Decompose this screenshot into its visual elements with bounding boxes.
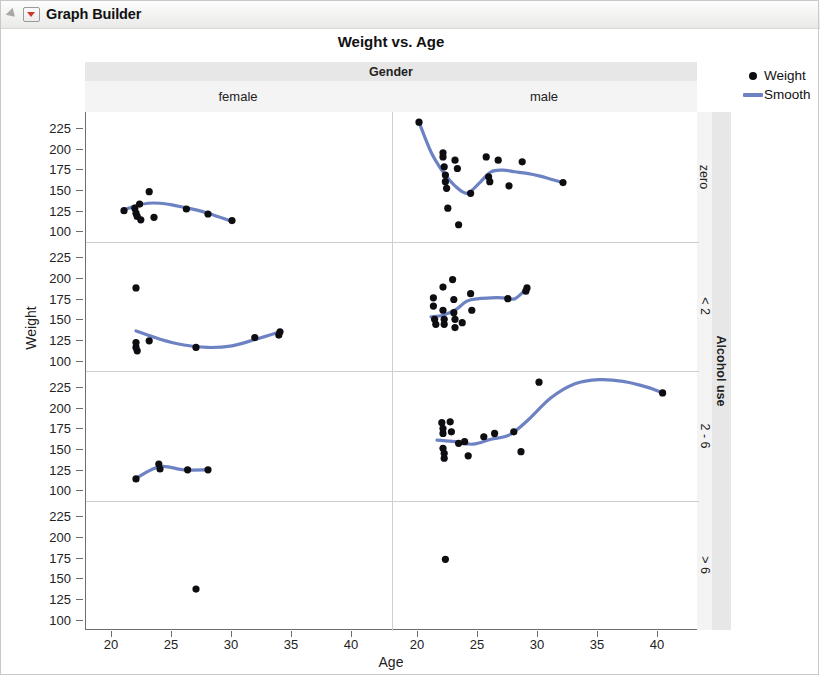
row-group-header: Alcohol use — [712, 112, 731, 630]
y-tick-label: 150 — [49, 441, 71, 456]
row-group-header-text: Alcohol use — [715, 336, 729, 407]
data-point[interactable] — [447, 418, 454, 425]
legend-item-weight[interactable]: Weight — [742, 66, 820, 85]
y-tick-label: 175 — [49, 162, 71, 177]
data-point[interactable] — [134, 347, 141, 354]
data-point[interactable] — [450, 295, 457, 302]
data-point[interactable] — [439, 306, 446, 313]
y-tick-label: 225 — [49, 509, 71, 524]
data-point[interactable] — [192, 343, 199, 350]
data-point[interactable] — [442, 172, 449, 179]
panel-male-zero — [392, 112, 699, 242]
data-point[interactable] — [251, 333, 258, 340]
plot-body — [85, 112, 697, 630]
data-point[interactable] — [439, 153, 446, 160]
y-tick-label: 200 — [49, 530, 71, 545]
data-point[interactable] — [228, 217, 235, 224]
data-point[interactable] — [483, 153, 490, 160]
graph-builder-window: Graph Builder Weight vs. Age Gender fema… — [0, 0, 820, 676]
data-point[interactable] — [204, 210, 211, 217]
y-tick-mark — [76, 449, 83, 450]
data-point[interactable] — [451, 315, 458, 322]
x-tick-label: 35 — [590, 637, 604, 652]
x-tick-label: 35 — [284, 637, 298, 652]
data-point[interactable] — [659, 389, 666, 396]
data-point[interactable] — [467, 190, 474, 197]
data-point[interactable] — [183, 205, 190, 212]
data-point[interactable] — [136, 200, 143, 207]
data-point[interactable] — [450, 309, 457, 316]
data-point[interactable] — [504, 295, 511, 302]
data-point[interactable] — [455, 221, 462, 228]
line-marker-icon — [742, 93, 764, 97]
data-point[interactable] — [486, 178, 493, 185]
y-tick-label: 100 — [49, 353, 71, 368]
data-point[interactable] — [535, 379, 542, 386]
x-axis: 20253035402025303540 — [85, 631, 697, 655]
data-point[interactable] — [459, 319, 466, 326]
y-axis-row: 100125150175200225 — [0, 112, 85, 242]
data-point[interactable] — [146, 188, 153, 195]
data-point[interactable] — [146, 337, 153, 344]
x-tick-label: 40 — [344, 637, 358, 652]
y-tick-label: 175 — [49, 550, 71, 565]
legend-item-smooth[interactable]: Smooth — [742, 85, 820, 104]
data-point[interactable] — [150, 214, 157, 221]
x-axis-column: 2025303540 — [391, 631, 697, 655]
y-axis-row: 100125150175200225 — [0, 242, 85, 372]
x-tick-label: 20 — [410, 637, 424, 652]
data-point[interactable] — [448, 428, 455, 435]
data-point[interactable] — [444, 205, 451, 212]
data-point[interactable] — [184, 466, 191, 473]
y-tick-mark — [76, 578, 83, 579]
data-point[interactable] — [517, 448, 524, 455]
y-tick-label: 225 — [49, 120, 71, 135]
y-tick-mark — [76, 319, 83, 320]
data-point[interactable] — [120, 207, 127, 214]
data-point[interactable] — [454, 165, 461, 172]
data-point[interactable] — [505, 182, 512, 189]
data-point[interactable] — [204, 466, 211, 473]
data-point[interactable] — [430, 294, 437, 301]
data-point[interactable] — [480, 433, 487, 440]
y-tick-mark — [76, 169, 83, 170]
data-point[interactable] — [432, 320, 439, 327]
data-point[interactable] — [156, 465, 163, 472]
data-point[interactable] — [137, 216, 144, 223]
y-tick-label: 175 — [49, 421, 71, 436]
panel-male-2 — [392, 242, 699, 373]
data-point[interactable] — [519, 158, 526, 165]
data-point[interactable] — [132, 475, 139, 482]
data-point[interactable] — [451, 324, 458, 331]
data-point[interactable] — [132, 284, 139, 291]
data-point[interactable] — [495, 157, 502, 164]
data-point[interactable] — [443, 185, 450, 192]
data-point[interactable] — [441, 320, 448, 327]
data-point[interactable] — [449, 276, 456, 283]
data-point[interactable] — [441, 163, 448, 170]
data-point[interactable] — [510, 428, 517, 435]
y-axis-row: 100125150175200225 — [0, 501, 85, 631]
data-point[interactable] — [415, 119, 422, 126]
data-point[interactable] — [441, 455, 448, 462]
data-point[interactable] — [461, 438, 468, 445]
data-point[interactable] — [442, 178, 449, 185]
data-point[interactable] — [192, 585, 199, 592]
x-tick-label: 30 — [530, 637, 544, 652]
data-point[interactable] — [439, 283, 446, 290]
data-point[interactable] — [559, 179, 566, 186]
data-point[interactable] — [275, 331, 282, 338]
data-point[interactable] — [442, 555, 449, 562]
data-point[interactable] — [491, 430, 498, 437]
data-point[interactable] — [465, 452, 472, 459]
data-point[interactable] — [522, 287, 529, 294]
data-point[interactable] — [468, 306, 475, 313]
data-point[interactable] — [430, 302, 437, 309]
data-point[interactable] — [439, 430, 446, 437]
x-tick-label: 20 — [104, 637, 118, 652]
row-label-gt6: > 6 — [697, 501, 712, 631]
data-point[interactable] — [467, 290, 474, 297]
legend-label: Smooth — [764, 87, 811, 102]
data-point[interactable] — [451, 157, 458, 164]
panel-female-6 — [86, 501, 392, 632]
